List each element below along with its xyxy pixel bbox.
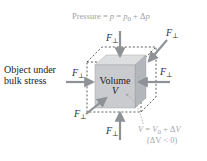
object-label-line1: Object under [4,64,57,75]
force-label-left: F⊥ [71,67,85,80]
force-label-bottom: F⊥ [105,125,119,138]
bulk-stress-diagram: Pressure = p = p0 + Δp Volume V F⊥ F⊥ F⊥… [0,0,207,161]
arrow-top-right [149,40,167,61]
volume-condition: (ΔV < 0) [147,135,178,145]
force-label-right: F⊥ [159,66,173,79]
object-label-line2: bulk stress [4,75,47,86]
force-label-top: F⊥ [105,32,119,45]
force-label-bottom-left: F⊥ [73,108,87,121]
pressure-title: Pressure = p = p0 + Δp [72,11,150,23]
force-label-top-right: F⊥ [165,27,179,40]
